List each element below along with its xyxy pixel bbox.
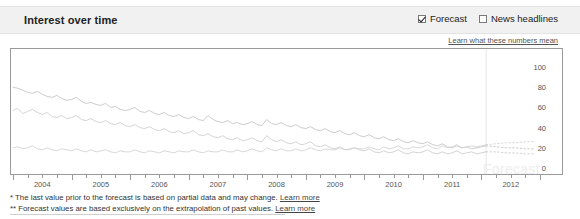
footnote-2-text: Forecast values are based exclusively on… bbox=[16, 204, 275, 213]
y-axis-label: 40 bbox=[538, 123, 546, 132]
x-axis-tick-minor bbox=[291, 175, 292, 178]
x-axis-tick-minor bbox=[438, 175, 439, 178]
news-headlines-checkbox[interactable]: News headlines bbox=[479, 14, 558, 24]
footnote-1-text: The last value prior to the forecast is … bbox=[13, 193, 280, 202]
x-axis-tick-major bbox=[72, 175, 73, 180]
page-title: Interest over time bbox=[24, 14, 118, 26]
trends-line-chart bbox=[11, 49, 562, 174]
x-axis-tick-major bbox=[13, 175, 14, 180]
checkbox-icon-forecast[interactable] bbox=[418, 15, 426, 23]
checkbox-icon-news-headlines[interactable] bbox=[479, 15, 487, 23]
y-axis-label: 20 bbox=[538, 143, 546, 152]
y-axis-label: 0 bbox=[542, 164, 546, 173]
x-axis-tick-minor bbox=[101, 175, 102, 178]
footer-divider bbox=[10, 214, 285, 215]
x-axis-tick-minor bbox=[174, 175, 175, 178]
x-axis-tick-minor bbox=[86, 175, 87, 178]
x-axis-tick-minor bbox=[159, 175, 160, 178]
forecast-checkbox[interactable]: Forecast bbox=[418, 14, 467, 24]
x-axis-tick-major bbox=[481, 175, 482, 180]
x-axis-label: 2011 bbox=[444, 180, 460, 189]
x-axis-tick-minor bbox=[394, 175, 395, 178]
forecast-checkbox-label: Forecast bbox=[430, 14, 467, 24]
x-axis-tick-minor bbox=[335, 175, 336, 178]
x-axis-tick-minor bbox=[467, 175, 468, 178]
footnote-2: ** Forecast values are based exclusively… bbox=[10, 203, 570, 214]
x-axis-tick-minor bbox=[350, 175, 351, 178]
interest-over-time-panel: Interest over time Forecast News headlin… bbox=[0, 0, 580, 219]
x-axis-tick-minor bbox=[115, 175, 116, 178]
x-axis-tick-minor bbox=[145, 175, 146, 178]
x-axis-tick-minor bbox=[42, 175, 43, 178]
x-axis-tick-minor bbox=[233, 175, 234, 178]
y-axis-label: 60 bbox=[538, 103, 546, 112]
x-axis-tick-major bbox=[423, 175, 424, 180]
x-axis-label: 2008 bbox=[268, 180, 285, 189]
x-axis-tick-minor bbox=[218, 175, 219, 178]
footnote-1-learn-more-link[interactable]: Learn more bbox=[280, 193, 320, 202]
x-axis-label: 2012 bbox=[502, 180, 519, 189]
x-axis-label: 2006 bbox=[151, 180, 168, 189]
x-axis-tick-minor bbox=[496, 175, 497, 178]
x-axis-tick-minor bbox=[379, 175, 380, 178]
x-axis-tick-major bbox=[189, 175, 190, 180]
learn-numbers-link[interactable]: Learn what these numbers mean bbox=[448, 36, 558, 45]
x-axis-tick-major bbox=[364, 175, 365, 180]
x-axis-tick-minor bbox=[525, 175, 526, 178]
chart-controls: Forecast News headlines bbox=[418, 14, 558, 24]
y-axis: 020406080100 bbox=[534, 48, 564, 175]
x-axis: 200420052006200720082009201020112012 bbox=[10, 175, 563, 191]
footnote-2-learn-more-link[interactable]: Learn more bbox=[275, 204, 315, 213]
x-axis-tick-minor bbox=[277, 175, 278, 178]
news-headlines-checkbox-label: News headlines bbox=[491, 14, 558, 24]
y-axis-label: 100 bbox=[533, 63, 546, 72]
x-axis-tick-minor bbox=[320, 175, 321, 178]
x-axis-label: 2010 bbox=[385, 180, 402, 189]
x-axis-tick-major bbox=[247, 175, 248, 180]
x-axis-label: 2009 bbox=[327, 180, 344, 189]
x-axis-label: 2005 bbox=[92, 180, 109, 189]
chart-plot-area: Forecast bbox=[10, 48, 563, 175]
x-axis-label: 2007 bbox=[210, 180, 227, 189]
x-axis-tick-major bbox=[540, 175, 541, 180]
x-axis-tick-minor bbox=[28, 175, 29, 178]
x-axis-tick-minor bbox=[408, 175, 409, 178]
x-axis-tick-minor bbox=[262, 175, 263, 178]
y-axis-label: 80 bbox=[538, 83, 546, 92]
footnote-1: * The last value prior to the forecast i… bbox=[10, 192, 570, 203]
x-axis-tick-major bbox=[306, 175, 307, 180]
x-axis-tick-major bbox=[130, 175, 131, 180]
x-axis-tick-minor bbox=[452, 175, 453, 178]
x-axis-tick-minor bbox=[203, 175, 204, 178]
x-axis-label: 2004 bbox=[34, 180, 51, 189]
x-axis-tick-minor bbox=[511, 175, 512, 178]
x-axis-tick-minor bbox=[57, 175, 58, 178]
footnotes: * The last value prior to the forecast i… bbox=[10, 192, 570, 214]
panel-header: Interest over time Forecast News headlin… bbox=[0, 6, 580, 34]
